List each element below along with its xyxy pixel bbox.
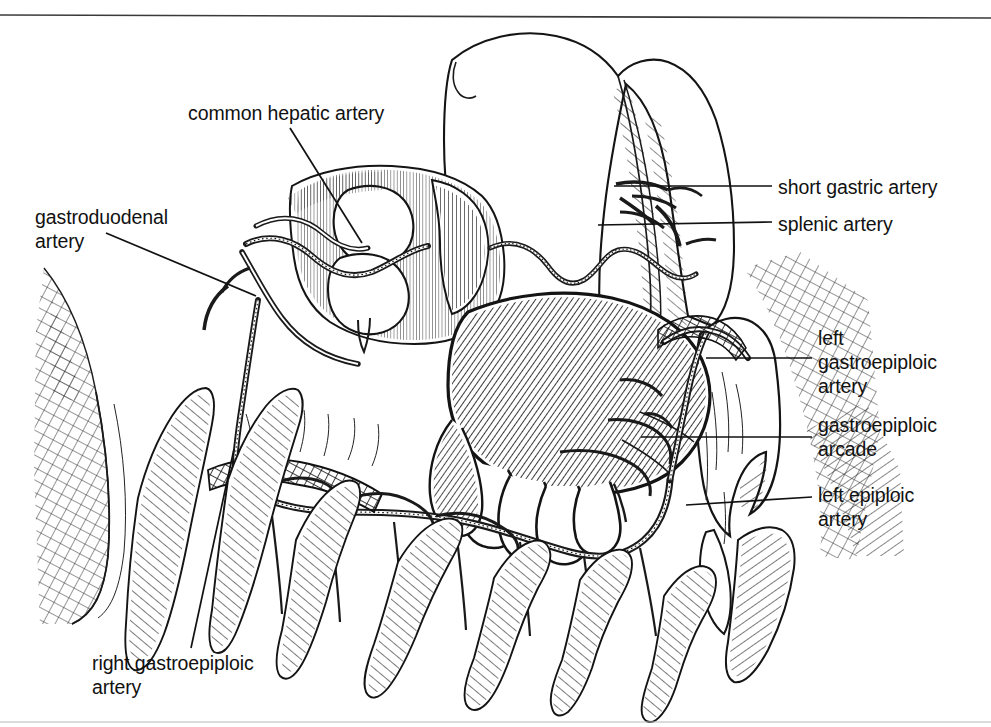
top-divider-rule <box>0 15 991 18</box>
anatomical-figure: common hepatic artery gastroduodenalarte… <box>0 0 991 727</box>
label-left-gastroepiploic-artery: leftgastroepiploicartery <box>818 326 937 398</box>
label-gastroduodenal-artery: gastroduodenalartery <box>35 205 168 253</box>
label-common-hepatic-artery: common hepatic artery <box>188 101 384 125</box>
common-hepatic-and-gastroduodenal-arteries <box>204 218 428 484</box>
label-gastroepiploic-arcade: gastroepiploicarcade <box>818 413 937 461</box>
label-short-gastric-artery: short gastric artery <box>778 175 937 199</box>
label-right-gastroepiploic-artery: right gastroepiploicartery <box>92 651 254 699</box>
label-left-epiploic-artery: left epiploicartery <box>818 483 914 531</box>
label-splenic-artery: splenic artery <box>778 212 893 236</box>
